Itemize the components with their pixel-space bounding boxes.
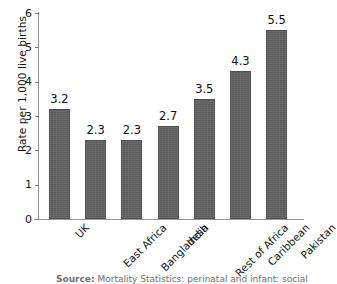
y-axis-tick-label: 4 <box>12 76 32 87</box>
bar <box>266 30 287 219</box>
y-axis-tick-label: 5 <box>12 42 32 53</box>
bar-value-label: 5.5 <box>260 15 294 27</box>
y-axis-tick-label: 6 <box>12 8 32 19</box>
y-axis-tick-label: 1 <box>12 179 32 190</box>
source-caption: Source: Mortality Statistics: perinatal … <box>56 274 308 284</box>
bar <box>85 140 106 219</box>
y-axis-tick-label: 2 <box>12 145 32 156</box>
bar-value-label: 3.2 <box>43 94 77 106</box>
bar-value-label: 2.3 <box>115 125 149 137</box>
bar <box>230 71 251 219</box>
bar-value-label: 4.3 <box>224 56 258 68</box>
bar-value-label: 2.7 <box>151 111 185 123</box>
bar <box>121 140 142 219</box>
x-axis-tick-label: India <box>185 222 211 248</box>
y-axis-tick-label: 0 <box>12 214 32 225</box>
bar <box>194 99 215 219</box>
y-axis-tick-label: 3 <box>12 111 32 122</box>
bar <box>158 126 179 219</box>
bar-value-label: 2.3 <box>79 125 113 137</box>
bar <box>49 109 70 219</box>
y-axis-tick-mark <box>35 219 39 220</box>
bar-value-label: 3.5 <box>187 84 221 96</box>
source-text: Mortality Statistics: perinatal and infa… <box>97 274 307 284</box>
source-label: Source: <box>56 274 95 284</box>
x-axis-tick-label: UK <box>73 222 91 240</box>
x-axis-line <box>34 219 304 220</box>
